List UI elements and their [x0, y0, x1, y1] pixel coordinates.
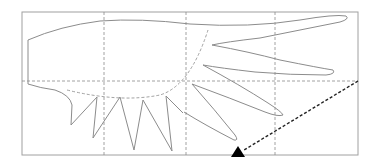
- triangle-marker-icon: [231, 146, 245, 157]
- diagram-frame: [22, 12, 358, 155]
- pointer-arrow: [244, 81, 358, 150]
- root-arc: [67, 30, 208, 98]
- wing-outline: [28, 16, 347, 152]
- wing-diagram: [0, 0, 379, 167]
- construction-grid: [22, 12, 358, 155]
